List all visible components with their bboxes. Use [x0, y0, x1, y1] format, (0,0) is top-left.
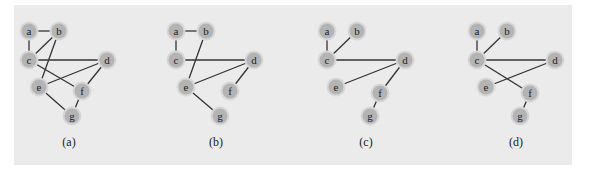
graph-d: abcdefg(d)	[468, 22, 565, 150]
node-d: d	[396, 51, 415, 70]
node-b: b	[498, 22, 517, 41]
node-label: c	[174, 54, 179, 66]
node-label: b	[203, 25, 209, 37]
edge-d-e	[486, 60, 555, 87]
node-g: g	[361, 107, 380, 126]
node-g: g	[211, 107, 230, 126]
node-c: c	[167, 51, 186, 70]
node-label: g	[367, 110, 373, 122]
node-label: e	[484, 81, 489, 93]
node-label: b	[504, 25, 510, 37]
node-label: c	[475, 54, 480, 66]
node-b: b	[197, 22, 216, 41]
node-label: d	[251, 54, 257, 66]
node-d: d	[546, 51, 565, 70]
node-g: g	[511, 107, 530, 126]
graph-caption: (d)	[509, 135, 523, 149]
node-label: e	[334, 81, 339, 93]
node-a: a	[468, 22, 487, 41]
node-f: f	[521, 84, 540, 103]
node-label: a	[27, 25, 32, 37]
node-label: f	[378, 87, 382, 99]
graph-caption: (c)	[359, 135, 372, 149]
node-c: c	[468, 51, 487, 70]
node-label: f	[228, 85, 232, 97]
node-c: c	[20, 51, 39, 70]
node-f: f	[371, 84, 390, 103]
graph-figure: abcdefg(a)abcdefg(b)abcdefg(c)abcdefg(d)	[0, 0, 589, 171]
node-a: a	[318, 22, 337, 41]
graph-a: abcdefg(a)	[20, 22, 117, 150]
node-label: d	[104, 54, 110, 66]
node-label: f	[528, 87, 532, 99]
node-a: a	[167, 22, 186, 41]
node-d: d	[245, 51, 264, 70]
node-f: f	[73, 82, 92, 101]
node-f: f	[221, 82, 240, 101]
node-e: e	[177, 78, 196, 97]
node-label: a	[475, 25, 480, 37]
graph-caption: (a)	[62, 135, 75, 149]
node-b: b	[50, 22, 69, 41]
node-label: a	[174, 25, 179, 37]
node-label: c	[325, 54, 330, 66]
node-d: d	[98, 51, 117, 70]
node-label: g	[217, 110, 223, 122]
node-label: a	[325, 25, 330, 37]
node-g: g	[63, 107, 82, 126]
node-label: d	[552, 54, 558, 66]
node-b: b	[348, 22, 367, 41]
graph-c: abcdefg(c)	[318, 22, 415, 150]
node-a: a	[20, 22, 39, 41]
node-label: b	[56, 25, 62, 37]
graph-b: abcdefg(b)	[167, 22, 264, 150]
node-label: g	[69, 110, 75, 122]
node-label: f	[80, 85, 84, 97]
node-e: e	[30, 78, 49, 97]
node-label: e	[184, 81, 189, 93]
node-label: b	[354, 25, 360, 37]
node-e: e	[477, 78, 496, 97]
node-label: g	[517, 110, 523, 122]
node-e: e	[327, 78, 346, 97]
graph-caption: (b)	[209, 135, 223, 149]
node-label: e	[37, 81, 42, 93]
node-label: c	[27, 54, 32, 66]
node-c: c	[318, 51, 337, 70]
node-label: d	[402, 54, 408, 66]
